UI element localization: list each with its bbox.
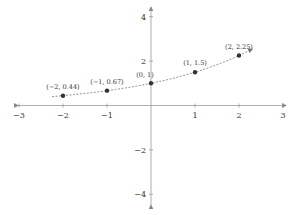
x-tick-label: −1 — [101, 111, 113, 120]
data-point-label: (1, 1.5) — [183, 59, 207, 67]
y-tick-label: −2 — [134, 146, 146, 155]
x-tick-label: 2 — [236, 111, 241, 120]
x-tick-label: 1 — [192, 111, 197, 120]
data-point-marker — [193, 70, 197, 74]
x-tick-label: 3 — [280, 111, 285, 120]
y-tick-label: 4 — [141, 13, 146, 22]
y-tick-label: 2 — [141, 57, 146, 66]
data-point-label: (2, 2.25) — [225, 43, 253, 51]
y-tick-label: −4 — [134, 190, 146, 199]
data-point-marker — [237, 53, 241, 57]
data-point-label: (−1, 0.67) — [90, 78, 124, 86]
x-tick-label: −3 — [13, 111, 25, 120]
data-points: (−2, 0.44)(−1, 0.67)(0, 1)(1, 1.5)(2, 2.… — [46, 43, 253, 98]
y-axis-ticks: 42−2−4 — [134, 13, 153, 200]
x-tick-label: −2 — [57, 111, 69, 120]
data-point-label: (0, 1) — [136, 71, 154, 79]
data-point-marker — [105, 88, 109, 92]
data-point-label: (−2, 0.44) — [46, 83, 80, 91]
data-point-marker — [61, 94, 65, 98]
exponential-function-graph: −3−2−1123 42−2−4 (−2, 0.44)(−1, 0.67)(0,… — [0, 0, 296, 215]
data-point-marker — [149, 81, 153, 85]
